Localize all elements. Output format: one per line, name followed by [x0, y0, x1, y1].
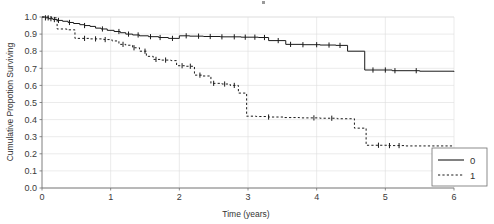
y-tick-label: 0.9: [24, 29, 37, 39]
y-tick-label: 0.3: [24, 132, 37, 142]
y-tick-label: 0.8: [24, 46, 37, 56]
gridlines: [42, 17, 454, 188]
y-tick-label: 1.0: [24, 12, 37, 22]
x-tick-label: 6: [451, 192, 456, 202]
y-tick-label: 0.2: [24, 149, 37, 159]
legend[interactable]: 0 1: [432, 148, 487, 186]
y-tick-label: 0.4: [24, 115, 37, 125]
legend-label-series-0: 0: [470, 155, 475, 166]
legend-label-series-1: 1: [470, 170, 475, 181]
plot-area: 0.00.10.20.30.40.50.60.70.80.91.0 012345…: [0, 0, 494, 224]
x-tick-label: 2: [177, 192, 182, 202]
y-tick-label: 0.1: [24, 166, 37, 176]
y-tick-label: 0.7: [24, 64, 37, 74]
y-tick-label: 0.6: [24, 81, 37, 91]
censor-marks: [45, 15, 416, 148]
x-tick-label: 0: [39, 192, 44, 202]
x-tick-label: 4: [314, 192, 319, 202]
x-tick-labels: 0123456: [39, 192, 456, 202]
y-axis-title: Cumulative Propotion Surviving: [5, 42, 15, 161]
x-tick-label: 5: [383, 192, 388, 202]
y-tick-label: 0.5: [24, 98, 37, 108]
x-tick-label: 3: [245, 192, 250, 202]
x-tick-label: 1: [108, 192, 113, 202]
title-fragment: [262, 1, 265, 4]
legend-box: [432, 148, 487, 186]
x-axis-title: Time (years): [222, 209, 270, 219]
survival-chart: 0.00.10.20.30.40.50.60.70.80.91.0 012345…: [0, 0, 494, 224]
y-tick-labels: 0.00.10.20.30.40.50.60.70.80.91.0: [24, 12, 37, 193]
y-tick-label: 0.0: [24, 183, 37, 193]
